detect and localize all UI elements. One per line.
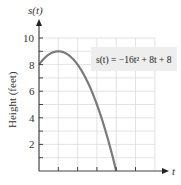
y-tick-labels: 246810: [23, 32, 35, 150]
function-label: s(t) = −16t² + 8t + 8: [96, 55, 172, 66]
chart: s(t) = −16t² + 8t + 8 s(t) t Height (fee…: [0, 0, 181, 185]
y-tick-label: 6: [29, 85, 35, 97]
y-axis-arrow-icon: [36, 19, 42, 26]
y-tick-label: 4: [29, 112, 35, 124]
x-axis-variable: t: [172, 165, 176, 177]
axes: [36, 19, 169, 174]
x-axis-arrow-icon: [162, 168, 169, 174]
y-axis-label: Height (feet): [6, 71, 19, 128]
y-tick-label: 2: [29, 138, 35, 150]
y-tick-label: 10: [23, 32, 35, 44]
y-axis-variable: s(t): [28, 4, 43, 17]
y-tick-label: 8: [29, 59, 35, 71]
